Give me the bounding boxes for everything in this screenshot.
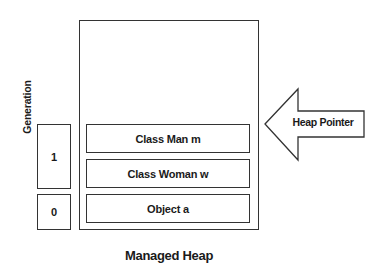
heap-object-class-woman: Class Woman w — [86, 159, 250, 188]
generation-0-box: 0 — [37, 194, 71, 230]
heap-pointer-label: Heap Pointer — [288, 116, 358, 128]
heap-object-label: Class Woman w — [128, 168, 209, 180]
generation-axis-label: Generation — [21, 77, 35, 137]
heap-object-object-a: Object a — [86, 194, 250, 223]
diagram-title: Managed Heap — [79, 248, 259, 263]
heap-object-label: Class Man m — [135, 133, 200, 145]
generation-1-box: 1 — [37, 124, 71, 189]
heap-object-label: Object a — [147, 203, 189, 215]
generation-1-label: 1 — [51, 151, 57, 163]
generation-0-label: 0 — [51, 206, 57, 218]
heap-object-class-man: Class Man m — [86, 124, 250, 153]
